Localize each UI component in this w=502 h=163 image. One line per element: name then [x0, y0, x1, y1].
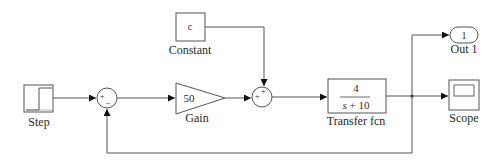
sum2-sign-plus-left: +	[255, 93, 260, 101]
out1-label: Out 1	[451, 42, 478, 57]
constant-label: Constant	[169, 43, 212, 58]
transfer-fcn-label: Transfer fcn	[327, 114, 386, 129]
step-label: Step	[28, 115, 49, 130]
tf-denominator: s + 10	[343, 99, 370, 111]
signal-constant-to-sum2	[205, 27, 264, 86]
tf-denominator-rest: + 10	[347, 99, 370, 111]
gain-label: Gain	[185, 111, 208, 126]
step-block[interactable]	[24, 85, 53, 112]
sum2-sign-plus-top: +	[261, 88, 266, 96]
sum1-sign-minus: –	[106, 99, 110, 107]
scope-block[interactable]	[449, 80, 479, 110]
constant-value: c	[188, 21, 192, 32]
tf-numerator: 4	[353, 82, 359, 94]
sum1-sign-plus: +	[100, 93, 105, 101]
out1-value: 1	[462, 30, 467, 41]
signal-to-out1	[412, 35, 449, 96]
block-diagram-canvas	[0, 0, 502, 163]
scope-label: Scope	[449, 111, 478, 126]
gain-value: 50	[184, 92, 195, 104]
